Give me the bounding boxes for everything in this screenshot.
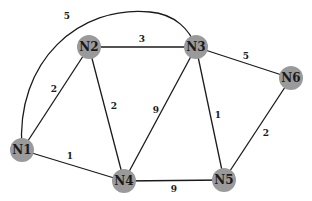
weight-n3-n5: 1 (215, 110, 221, 120)
node-n3: N3 (184, 35, 208, 59)
weight-n3-n4: 9 (153, 105, 159, 115)
edge-n4-n5 (124, 180, 224, 181)
node-label: N1 (12, 143, 31, 157)
weight-n2-n3: 3 (139, 34, 145, 44)
node-n6: N6 (279, 66, 303, 90)
edges (21, 11, 291, 181)
node-label: N4 (114, 174, 133, 188)
weight-n2-n4: 2 (111, 101, 117, 111)
edge-n5-n6 (224, 78, 291, 180)
node-n4: N4 (112, 169, 136, 193)
node-label: N3 (186, 40, 205, 54)
node-label: N5 (214, 173, 233, 187)
node-label: N6 (281, 71, 300, 85)
weight-n1-n3: 5 (64, 11, 70, 21)
edge-n1-n3 (21, 11, 196, 150)
weight-n3-n6: 5 (243, 51, 249, 61)
graph-diagram: 5 2 1 3 2 9 1 5 9 2 N1 N2 N3 N4 N5 N6 (0, 0, 312, 201)
node-n2: N2 (77, 35, 101, 59)
weight-n1-n2: 2 (51, 84, 57, 94)
edge-n1-n2 (22, 47, 89, 150)
node-n1: N1 (10, 138, 34, 162)
weight-n5-n6: 2 (263, 128, 269, 138)
weight-n4-n5: 9 (171, 184, 177, 194)
node-n5: N5 (212, 168, 236, 192)
node-label: N2 (79, 40, 98, 54)
edge-n2-n4 (89, 47, 124, 181)
edge-n3-n4 (124, 47, 196, 181)
weight-n1-n4: 1 (67, 151, 73, 161)
